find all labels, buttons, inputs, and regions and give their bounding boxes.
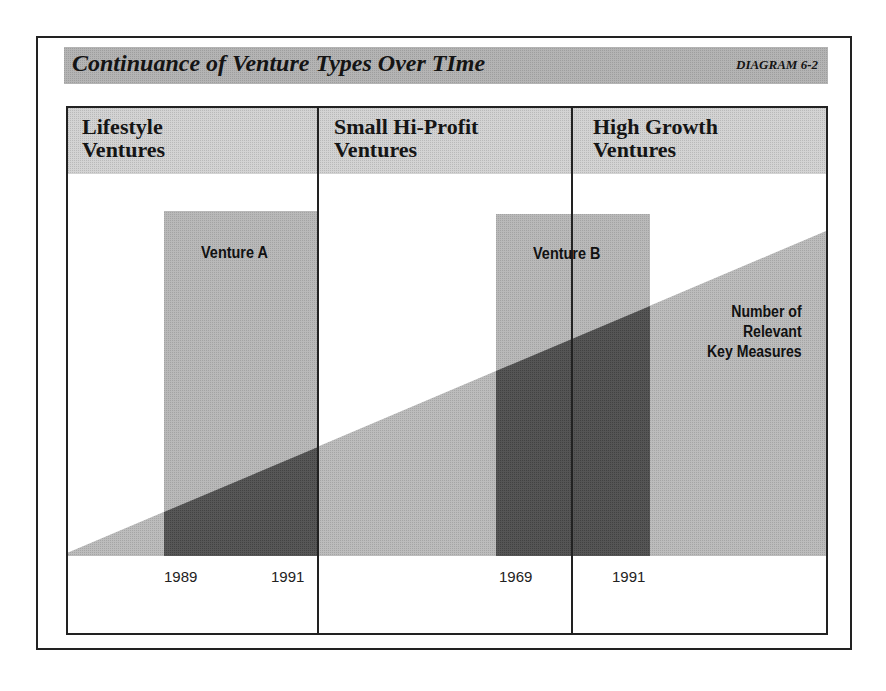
diagram-box bbox=[66, 106, 828, 635]
column-header-small-hi-profit: Small Hi-Profit Ventures bbox=[334, 115, 478, 161]
venture-a-start-year: 1989 bbox=[164, 568, 197, 585]
key-measures-label-line2: Relevant bbox=[707, 322, 802, 342]
key-measures-label-line3: Key Measures bbox=[707, 342, 802, 362]
key-measures-label-line1: Number of bbox=[707, 302, 802, 322]
column-header-line2: Ventures bbox=[334, 138, 478, 161]
column-divider-1 bbox=[317, 107, 319, 634]
column-header-lifestyle: Lifestyle Ventures bbox=[82, 115, 165, 161]
key-measures-label: Number of Relevant Key Measures bbox=[707, 302, 802, 362]
column-divider-2 bbox=[571, 107, 573, 634]
venture-b-end-year: 1991 bbox=[612, 568, 645, 585]
column-header-line1: Small Hi-Profit bbox=[334, 115, 478, 138]
venture-b-label: Venture B bbox=[533, 244, 600, 264]
column-header-high-growth: High Growth Ventures bbox=[593, 115, 718, 161]
column-header-line2: Ventures bbox=[593, 138, 718, 161]
venture-b-start-year: 1969 bbox=[499, 568, 532, 585]
column-header-line1: High Growth bbox=[593, 115, 718, 138]
column-header-line1: Lifestyle bbox=[82, 115, 165, 138]
venture-a-label: Venture A bbox=[201, 243, 268, 263]
column-header-line2: Ventures bbox=[82, 138, 165, 161]
venture-a-end-year: 1991 bbox=[271, 568, 304, 585]
